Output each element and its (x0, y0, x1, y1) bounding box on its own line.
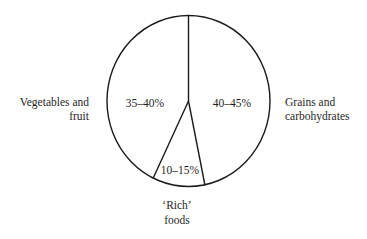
slice-value-grains: 40–45% (213, 97, 252, 109)
label-rich-foods-line1: ‘Rich’ (162, 199, 191, 211)
slice-value-rich-foods: 10–15% (161, 164, 200, 176)
pie-chart-svg: 35–40% 40–45% 10–15% Vegetables and frui… (0, 0, 367, 239)
pie-chart: 35–40% 40–45% 10–15% Vegetables and frui… (0, 0, 367, 239)
label-grains-line1: Grains and (285, 96, 335, 108)
label-rich-foods-line2: foods (164, 214, 190, 226)
label-vegetables-line2: fruit (69, 110, 90, 122)
label-grains-line2: carbohydrates (285, 110, 350, 123)
slice-value-vegetables: 35–40% (126, 97, 165, 109)
label-vegetables-line1: Vegetables and (20, 96, 90, 109)
